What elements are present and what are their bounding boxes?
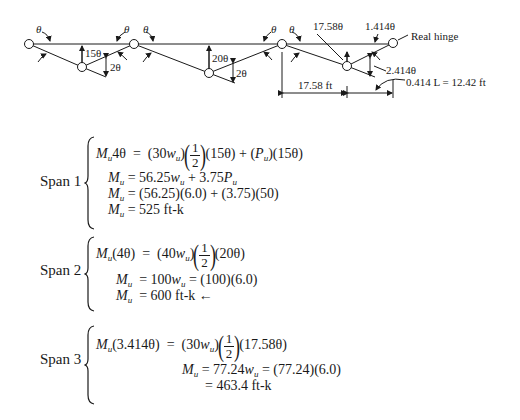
theta-label: θ [289, 23, 295, 35]
theta-arrow [291, 53, 299, 62]
hinge-icon [278, 40, 287, 49]
real-hinge-leader [398, 35, 408, 40]
theta-arrow [264, 52, 272, 60]
theta-arrow [38, 54, 46, 62]
theta-label: θ [271, 23, 277, 35]
hinge-icon [78, 63, 87, 72]
span-2-equation-3: Mu = 600 ft-k ← [116, 288, 213, 308]
theta-arrow [118, 52, 127, 60]
span3-left-rotation-label: 1.414θ [365, 20, 395, 32]
span1-deflection-label: 15θ [85, 47, 101, 59]
span-2-equation-1: Mu(4θ) = (40wu)(12)(20θ) [96, 240, 245, 270]
span-1-brace [84, 136, 96, 230]
theta-label: θ [143, 23, 149, 35]
span1-rotation-label: 2θ [110, 61, 121, 73]
span-3-brace [84, 325, 96, 405]
span2-rotation-label: 2θ [236, 67, 247, 79]
hinge-icon [25, 40, 34, 49]
span-1-equation-1: Mu4θ = (30wu)(12)(15θ) + (Pu)(15θ) [96, 140, 303, 170]
theta-arrow [143, 53, 151, 62]
theta-arrow [42, 32, 50, 41]
span3-deflection-leader [317, 34, 343, 60]
dim-right-leader [376, 79, 405, 90]
span2-deflection-label: 20θ [212, 52, 228, 64]
real-hinge-label: Real hinge [411, 30, 458, 42]
rotation-2414-leader [374, 66, 386, 71]
hinge-icon [130, 40, 139, 49]
theta-label: θ [36, 23, 42, 35]
theta-arrow [375, 34, 378, 42]
hinge-icon [343, 62, 352, 71]
real-hinge-icon [389, 39, 398, 48]
span-3-equation-3: = 463.4 ft-k [205, 378, 272, 394]
span-2-brace [84, 236, 96, 312]
theta-arrow [372, 52, 380, 60]
span-1-label: Span 1 [40, 173, 81, 190]
theta-label: θ [124, 23, 130, 35]
span-2-label: Span 2 [40, 262, 81, 279]
collapse-mechanism-diagram: θ θ θ θ θ 15θ 2θ 20θ 2θ 17.58θ 1.414θ 2.… [0, 0, 520, 110]
theta-arrow [264, 32, 271, 41]
span3-right-rotation-label: 2.414θ [386, 64, 416, 76]
dim-right-label: 0.414 L = 12.42 ft [406, 76, 486, 88]
dim-left-label: 17.58 ft [298, 79, 332, 91]
span3-deflection-label: 17.58θ [313, 20, 343, 32]
span-1-equation-4: Mu = 525 ft-k [108, 202, 184, 222]
span-3-equation-1: Mu(3.414θ) = (30wu)(12)(17.58θ) [96, 331, 287, 361]
span-3-label: Span 3 [40, 351, 81, 368]
hinge-icon [205, 69, 214, 78]
